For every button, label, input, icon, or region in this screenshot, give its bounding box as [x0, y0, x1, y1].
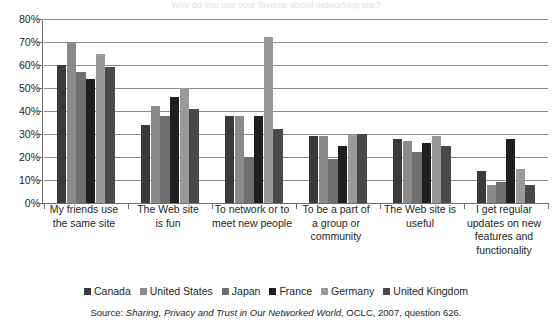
gridline: [44, 111, 548, 112]
x-axis-label: The Web siteis fun: [126, 203, 210, 230]
y-tick-mark: [37, 42, 43, 43]
legend-item[interactable]: United Kingdom: [383, 286, 468, 297]
x-axis-label: I get regularupdates on newfeatures andf…: [462, 203, 546, 257]
y-tick-label: 30%: [0, 129, 40, 139]
bar: [244, 157, 253, 203]
chart-legend: CanadaUnited StatesJapanFranceGermanyUni…: [0, 284, 552, 298]
gridline: [44, 134, 548, 135]
bar: [441, 146, 450, 204]
legend-label: Germany: [331, 286, 374, 297]
bar: [160, 116, 169, 203]
legend-label: United States: [150, 286, 213, 297]
bar: [525, 185, 534, 203]
bar: [309, 136, 318, 203]
bar: [57, 65, 66, 203]
source-suffix: , OCLC, 2007, question 626.: [341, 307, 461, 318]
x-axis-label: To be a part ofa group orcommunity: [294, 203, 378, 244]
gridline: [44, 180, 548, 181]
bar: [264, 37, 273, 203]
bar: [273, 129, 282, 203]
y-tick-mark: [37, 157, 43, 158]
y-tick-mark: [37, 88, 43, 89]
legend-swatch-icon: [222, 288, 229, 295]
bar: [235, 116, 244, 203]
gridline: [44, 157, 548, 158]
bar: [422, 143, 431, 203]
bar: [487, 185, 496, 203]
y-tick-mark: [37, 111, 43, 112]
legend-swatch-icon: [140, 288, 147, 295]
plot-area-wrapper: 80%70%60%50%40%30%20%10%0%: [0, 10, 552, 200]
legend-item[interactable]: Canada: [84, 286, 131, 297]
bar: [76, 72, 85, 203]
bar: [348, 134, 357, 203]
gridline: [44, 19, 548, 20]
bar: [477, 171, 486, 203]
legend-item[interactable]: United States: [140, 286, 213, 297]
bar: [516, 169, 525, 204]
x-axis-label: The Web site isuseful: [378, 203, 462, 230]
bar: [496, 182, 505, 203]
legend-swatch-icon: [84, 288, 91, 295]
legend-label: Canada: [94, 286, 131, 297]
bar: [319, 136, 328, 203]
bar: [105, 67, 114, 203]
gridline: [44, 42, 548, 43]
gridline: [44, 65, 548, 66]
source-title: Sharing, Privacy and Trust in Our Networ…: [126, 307, 341, 318]
legend-item[interactable]: Japan: [222, 286, 261, 297]
bar: [67, 42, 76, 203]
x-axis-label: To network or tomeet new people: [210, 203, 294, 230]
bar: [393, 139, 402, 203]
y-tick-label: 80%: [0, 14, 40, 24]
y-tick-label: 50%: [0, 83, 40, 93]
y-tick-mark: [37, 65, 43, 66]
bar: [338, 146, 347, 204]
bar: [254, 116, 263, 203]
chart-figure: Why do you use your favorite social netw…: [0, 0, 552, 326]
bar: [357, 134, 366, 203]
source-note: Source: Sharing, Privacy and Trust in Ou…: [0, 307, 552, 319]
y-tick-mark: [37, 19, 43, 20]
y-tick-label: 20%: [0, 152, 40, 162]
y-tick-label: 0%: [0, 198, 40, 208]
bar: [96, 54, 105, 204]
y-tick-mark: [37, 180, 43, 181]
y-tick-label: 10%: [0, 175, 40, 185]
bar: [225, 116, 234, 203]
bar: [506, 139, 515, 203]
bar: [170, 97, 179, 203]
x-axis-label: My friends usethe same site: [42, 203, 126, 230]
bar: [403, 141, 412, 203]
bar: [180, 88, 189, 203]
legend-label: France: [279, 286, 312, 297]
bar: [86, 79, 95, 203]
y-tick-label: 60%: [0, 60, 40, 70]
x-axis-category-labels: My friends usethe same siteThe Web sitei…: [42, 203, 550, 281]
legend-swatch-icon: [269, 288, 276, 295]
clipped-title: Why do you use your favorite social netw…: [0, 0, 552, 9]
legend-label: United Kingdom: [393, 286, 468, 297]
legend-item[interactable]: France: [269, 286, 312, 297]
gridline: [44, 88, 548, 89]
bar: [189, 109, 198, 203]
plot-area: [44, 19, 548, 203]
y-tick-label: 70%: [0, 37, 40, 47]
bar: [432, 136, 441, 203]
legend-label: Japan: [232, 286, 261, 297]
legend-swatch-icon: [321, 288, 328, 295]
bar: [412, 152, 421, 203]
bar: [328, 159, 337, 203]
legend-item[interactable]: Germany: [321, 286, 374, 297]
y-axis-labels: 80%70%60%50%40%30%20%10%0%: [0, 10, 40, 200]
bar: [141, 125, 150, 203]
y-tick-label: 40%: [0, 106, 40, 116]
legend-swatch-icon: [383, 288, 390, 295]
source-prefix: Source:: [90, 307, 125, 318]
y-tick-mark: [37, 134, 43, 135]
bar: [151, 106, 160, 203]
